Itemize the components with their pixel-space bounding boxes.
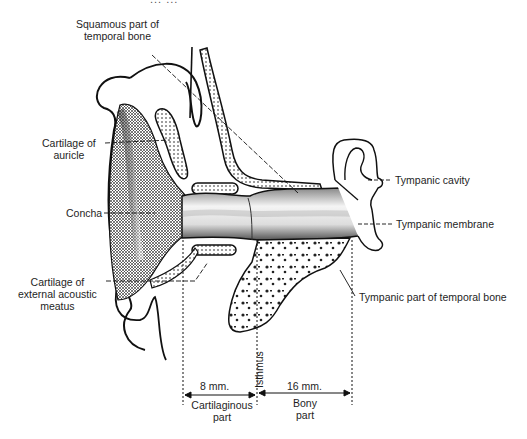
- tympanic-part-temporal-bone: [229, 238, 350, 332]
- label-isthmus: Isthmus: [253, 351, 265, 388]
- label-tympanic-membrane: Tympanic membrane: [396, 218, 494, 230]
- canal-cartilage-lower: [192, 245, 236, 255]
- measurement-bony-length: 16 mm.: [287, 380, 322, 392]
- measurement-cartilaginous-length: 8 mm.: [200, 380, 229, 392]
- label-squamous-part: Squamous part of temporal bone: [76, 18, 159, 42]
- squamous-temporal-bone: [200, 48, 322, 190]
- label-cartilaginous-part: Cartilaginous part: [187, 399, 257, 423]
- label-cartilage-of-external-acoustic-meatus: Cartilage of external acoustic meatus: [18, 276, 97, 312]
- cropped-title: ... ...: [150, 0, 178, 5]
- label-bony-part: Bony part: [280, 397, 330, 421]
- label-tympanic-cavity: Tympanic cavity: [395, 174, 470, 186]
- label-concha: Concha: [66, 207, 102, 219]
- canal-cartilage-upper: [192, 183, 238, 194]
- label-cartilage-of-auricle: Cartilage of auricle: [42, 137, 96, 161]
- label-tympanic-part-of-temporal-bone: Tympanic part of temporal bone: [359, 291, 507, 303]
